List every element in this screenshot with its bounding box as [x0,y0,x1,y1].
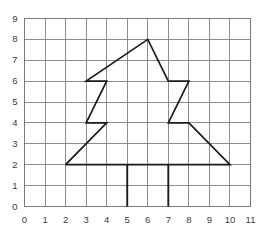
x-tick-label: 0 [22,214,27,225]
x-tick-label: 7 [166,214,171,225]
x-tick-label: 10 [225,214,236,225]
y-axis-tick-labels: 0123456789 [12,13,17,212]
x-tick-label: 6 [145,214,150,225]
x-tick-label: 5 [125,214,130,225]
y-tick-label: 7 [12,54,17,65]
y-tick-label: 9 [12,13,17,24]
plot-canvas: 01234567891011 0123456789 [0,0,266,234]
y-tick-label: 8 [12,33,17,44]
x-tick-label: 2 [63,214,68,225]
x-axis-tick-labels: 01234567891011 [22,214,256,225]
y-tick-label: 0 [12,201,17,212]
coordinate-grid-figure: 01234567891011 0123456789 [0,0,266,234]
y-tick-label: 6 [12,75,17,86]
x-tick-label: 1 [42,214,47,225]
x-tick-label: 8 [186,214,191,225]
y-tick-label: 2 [12,159,17,170]
x-tick-label: 11 [246,214,256,225]
y-tick-label: 1 [12,180,17,191]
x-tick-label: 9 [207,214,212,225]
y-tick-label: 3 [12,138,17,149]
y-tick-label: 4 [12,117,17,128]
x-tick-label: 4 [104,214,109,225]
x-tick-label: 3 [83,214,88,225]
y-tick-label: 5 [12,96,17,107]
